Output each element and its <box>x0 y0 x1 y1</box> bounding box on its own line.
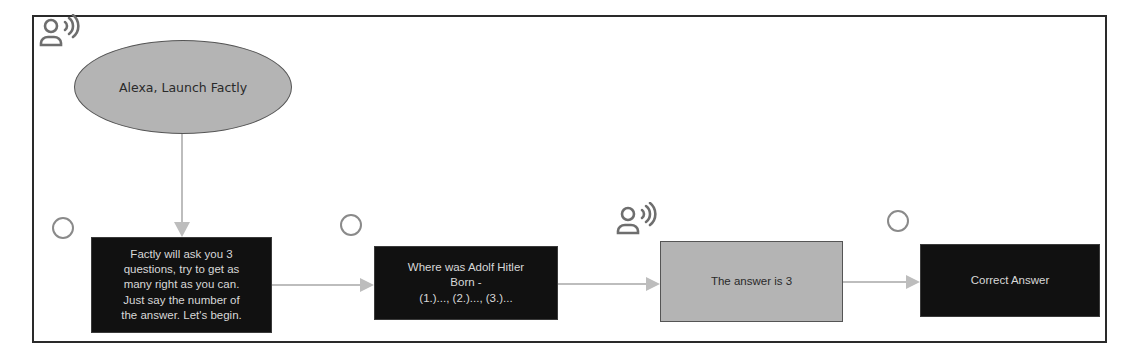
node-question[interactable]: Where was Adolf Hitler Born - (1.)..., (… <box>374 246 558 320</box>
node-question-line: Where was Adolf Hitler <box>408 260 524 275</box>
node-intro[interactable]: Factly will ask you 3 questions, try to … <box>91 237 272 333</box>
node-user-answer[interactable]: The answer is 3 <box>660 241 843 322</box>
node-launch[interactable]: Alexa, Launch Factly <box>74 40 292 134</box>
node-feedback[interactable]: Correct Answer <box>920 244 1100 317</box>
user-voice-icon <box>38 14 84 48</box>
alexa-circle-icon <box>887 210 909 232</box>
node-question-line: Born - <box>408 275 524 290</box>
node-intro-line: the answer. Let's begin. <box>121 308 241 323</box>
node-feedback-text: Correct Answer <box>971 273 1050 288</box>
node-intro-line: Just say the number of <box>121 293 241 308</box>
node-launch-text: Alexa, Launch Factly <box>119 80 247 95</box>
alexa-circle-icon <box>52 217 74 239</box>
node-user-answer-text: The answer is 3 <box>711 274 792 289</box>
node-question-line: (1.)..., (2.)..., (3.)... <box>408 291 524 306</box>
node-intro-line: questions, try to get as <box>121 262 241 277</box>
node-intro-line: many right as you can. <box>121 277 241 292</box>
node-intro-line: Factly will ask you 3 <box>121 247 241 262</box>
user-voice-icon <box>615 202 661 236</box>
alexa-circle-icon <box>340 214 362 236</box>
